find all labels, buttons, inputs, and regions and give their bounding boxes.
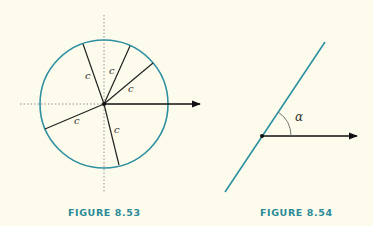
vertex-point [260, 134, 264, 138]
segment-2 [104, 46, 130, 104]
angle-label: α [295, 110, 303, 124]
figure-8-54: α FIGURE 8.54 [225, 42, 357, 218]
angle-arc [278, 112, 291, 136]
slanted-line [225, 42, 325, 192]
segment-label-4: c [74, 115, 80, 126]
caption-figure-8-54: FIGURE 8.54 [260, 207, 333, 218]
figure-canvas: c c c c c FIGURE 8.53 α FIGURE 8.54 [0, 0, 373, 226]
caption-figure-8-53: FIGURE 8.53 [68, 207, 141, 218]
segment-label-3: c [128, 83, 134, 94]
segment-label-5: c [114, 124, 120, 135]
segment-label-1: c [85, 70, 91, 81]
segment-label-2: c [109, 65, 115, 76]
center-point [102, 102, 106, 106]
figure-8-53: c c c c c FIGURE 8.53 [20, 15, 200, 218]
